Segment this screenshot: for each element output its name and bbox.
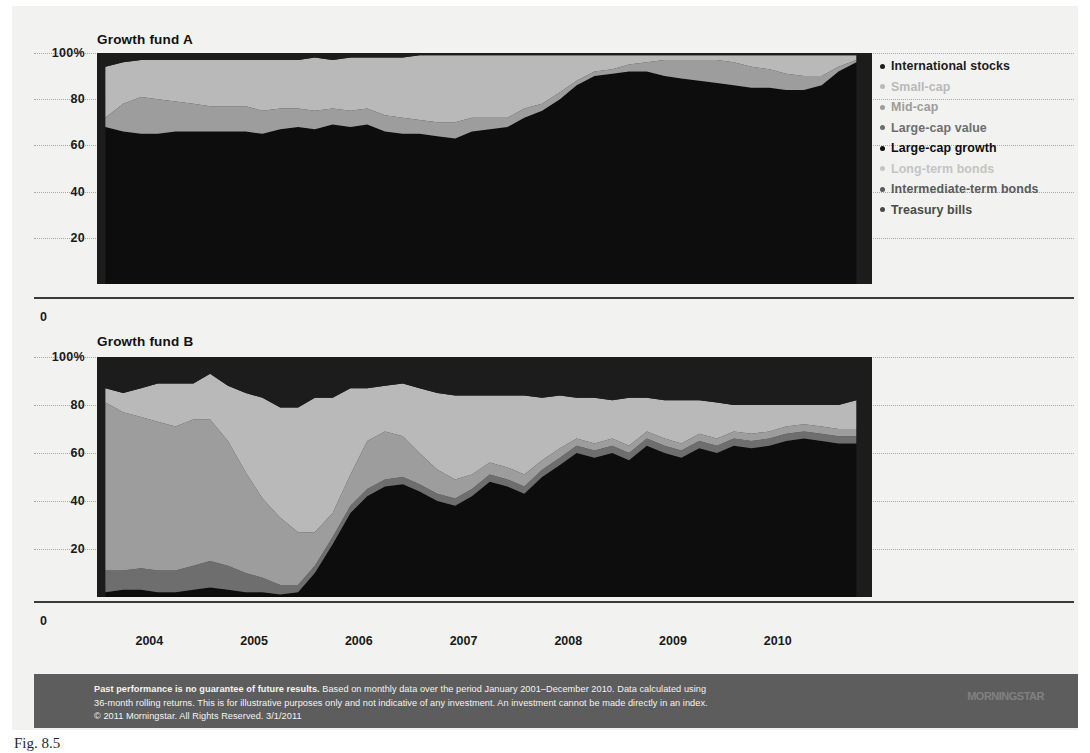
figure-caption: Fig. 8.5 <box>14 735 60 752</box>
y-tick-label: 100% <box>52 350 85 364</box>
x-tick-label: 2004 <box>135 634 163 648</box>
legend-item-label: International stocks <box>891 59 1010 73</box>
footer-lead: Past performance is no guarantee of futu… <box>94 684 320 694</box>
y-tick-label: 20 <box>70 542 85 556</box>
y-tick-label: 80 <box>70 92 85 106</box>
legend-item-5[interactable]: Long-term bonds <box>880 159 1080 180</box>
panel-a-baseline <box>34 297 1074 299</box>
legend-item-0[interactable]: International stocks <box>880 56 1080 77</box>
footer-line-3: © 2011 Morningstar. All Rights Reserved.… <box>94 710 964 724</box>
y-tick-label: 40 <box>70 494 85 508</box>
legend-item-7[interactable]: Treasury bills <box>880 200 1080 221</box>
legend-swatch-icon <box>880 166 885 171</box>
y-tick-label: 20 <box>70 231 85 245</box>
legend-item-6[interactable]: Intermediate-term bonds <box>880 179 1080 200</box>
footer-text: Past performance is no guarantee of futu… <box>94 683 964 724</box>
legend-item-1[interactable]: Small-cap <box>880 77 1080 98</box>
x-tick-label: 2010 <box>764 634 792 648</box>
y-tick-label: 40 <box>70 185 85 199</box>
y-tick-label: 100% <box>52 46 85 60</box>
legend-swatch-icon <box>880 125 885 130</box>
legend-item-label: Long-term bonds <box>891 162 994 176</box>
panel-b-plot-area <box>97 357 872 597</box>
panel-a-title: Growth fund A <box>97 32 193 47</box>
panel-b-zero-label: 0 <box>40 614 47 628</box>
panel-a-zero-label: 0 <box>40 310 47 324</box>
stacked-area-svg <box>97 357 872 597</box>
legend-swatch-icon <box>880 105 885 110</box>
legend-swatch-icon <box>880 187 885 192</box>
x-tick-label: 2008 <box>554 634 582 648</box>
footer-line-2: 36-month rolling returns. This is for il… <box>94 697 964 711</box>
x-tick-label: 2005 <box>240 634 268 648</box>
legend-item-2[interactable]: Mid-cap <box>880 97 1080 118</box>
footer-disclaimer: Past performance is no guarantee of futu… <box>34 674 1078 728</box>
y-tick-label: 80 <box>70 398 85 412</box>
x-tick-label: 2006 <box>345 634 373 648</box>
legend-item-4[interactable]: Large-cap growth <box>880 138 1080 159</box>
y-tick-label: 60 <box>70 446 85 460</box>
legend-swatch-icon <box>880 84 885 89</box>
morningstar-logo: MORNINGSTAR <box>967 690 1044 702</box>
legend-item-label: Treasury bills <box>891 203 972 217</box>
x-axis-labels: 2004200520062007200820092010 <box>12 634 1078 664</box>
legend-item-label: Small-cap <box>891 80 950 94</box>
chart-legend: International stocksSmall-capMid-capLarg… <box>880 56 1080 220</box>
legend-item-label: Intermediate-term bonds <box>891 182 1039 196</box>
panel-a-plot-area <box>97 53 872 284</box>
panel-b-baseline <box>34 601 1074 603</box>
legend-item-label: Mid-cap <box>891 100 939 114</box>
figure-container: Growth fund A 100%80604020 0 Growth fund… <box>12 6 1078 730</box>
x-tick-label: 2007 <box>450 634 478 648</box>
panel-growth-fund-b: Growth fund B 100%80604020 0 <box>12 324 1078 624</box>
legend-item-label: Large-cap value <box>891 121 987 135</box>
stacked-area-svg <box>97 53 872 284</box>
y-tick-label: 60 <box>70 138 85 152</box>
footer-line-1: Past performance is no guarantee of futu… <box>94 683 964 697</box>
legend-item-label: Large-cap growth <box>891 141 997 155</box>
x-tick-label: 2009 <box>659 634 687 648</box>
legend-item-3[interactable]: Large-cap value <box>880 118 1080 139</box>
footer-line-1-rest: Based on monthly data over the period Ja… <box>320 684 706 694</box>
legend-swatch-icon <box>880 207 885 212</box>
panel-b-title: Growth fund B <box>97 334 193 349</box>
legend-swatch-icon <box>880 146 885 151</box>
legend-swatch-icon <box>880 64 885 69</box>
